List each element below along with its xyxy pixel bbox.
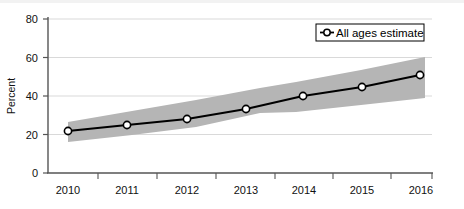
data-point-2016: [416, 71, 423, 78]
data-point-2015: [358, 83, 365, 90]
x-tick-label-2014: 2014: [292, 184, 316, 196]
data-point-2011: [123, 121, 130, 128]
x-tick-label-2010: 2010: [56, 184, 80, 196]
legend-marker-icon: [324, 29, 330, 35]
y-tick-label-20: 20: [26, 129, 38, 141]
chart-figure: 80 60 40 20 0 Percent 2010 2011 2012 201…: [0, 0, 464, 209]
chart-legend[interactable]: All ages estimate: [316, 24, 424, 41]
x-tick-label-2015: 2015: [350, 184, 374, 196]
data-point-2010: [64, 127, 71, 134]
x-tick-label-2013: 2013: [234, 184, 258, 196]
data-point-2014: [299, 92, 306, 99]
y-axis-ticks: [43, 19, 48, 173]
data-point-2013: [242, 105, 249, 112]
y-tick-label-40: 40: [26, 90, 38, 102]
y-axis-title: Percent: [5, 78, 17, 114]
y-tick-label-60: 60: [26, 52, 38, 64]
y-tick-label-0: 0: [32, 167, 38, 179]
legend-entry-label: All ages estimate: [336, 27, 424, 39]
x-tick-label-2012: 2012: [175, 184, 199, 196]
x-tick-label-2016: 2016: [409, 184, 433, 196]
line-chart: 80 60 40 20 0 Percent 2010 2011 2012 201…: [0, 0, 464, 209]
x-axis-ticks: [98, 173, 432, 179]
y-tick-label-80: 80: [26, 13, 38, 25]
cut-off-caption: [0, 203, 464, 209]
x-tick-label-2011: 2011: [115, 184, 139, 196]
data-point-2012: [183, 115, 190, 122]
